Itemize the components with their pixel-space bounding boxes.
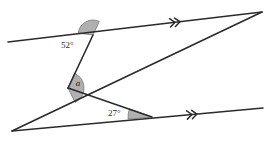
- geometry-diagram: 52° a 27°: [0, 0, 270, 143]
- angle-label-52: 52°: [61, 40, 74, 50]
- angle-label-27: 27°: [108, 108, 121, 118]
- angle-label-a: a: [76, 78, 81, 88]
- top-parallel-line: [8, 12, 262, 42]
- geometry-canvas: 52° a 27°: [0, 0, 270, 143]
- parallel-mark-group: [170, 18, 198, 120]
